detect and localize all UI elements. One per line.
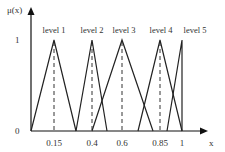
x-axis-label: x (209, 138, 214, 148)
origin-label: 0 (15, 126, 20, 136)
level-1-label: level 1 (43, 25, 66, 35)
level-2-label: level 2 (81, 25, 104, 35)
x-axis-arrow-icon (200, 128, 208, 135)
x-tick-1: 1 (180, 138, 185, 148)
x-tick-0.15: 0.15 (46, 138, 62, 148)
y-tick-1: 1 (15, 35, 20, 45)
y-axis-arrow-icon (28, 7, 35, 15)
y-axis-label: μ(x) (7, 5, 22, 15)
x-tick-0.4: 0.4 (86, 138, 98, 148)
x-tick-0.6: 0.6 (116, 138, 128, 148)
level-5-label: level 5 (184, 25, 207, 35)
membership-function-chart: μ(x) x 1 0 0.15 0.4 0.6 0.85 1 level 1 l… (0, 0, 225, 152)
level-3-label: level 3 (113, 25, 136, 35)
level-4-label: level 4 (150, 25, 174, 35)
x-tick-0.85: 0.85 (152, 138, 168, 148)
level-5-triangle (167, 40, 182, 131)
